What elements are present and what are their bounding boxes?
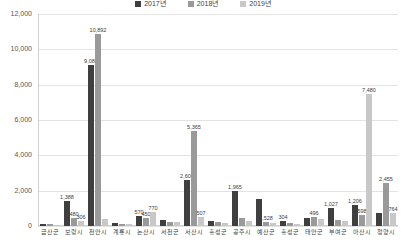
y-tick-label: 0 bbox=[28, 222, 32, 230]
bar[interactable] bbox=[383, 183, 389, 226]
bar[interactable] bbox=[167, 222, 173, 226]
bar-group: 2,455764 bbox=[374, 14, 398, 226]
bar[interactable] bbox=[126, 224, 132, 226]
bar[interactable] bbox=[174, 222, 180, 226]
bar-slot bbox=[119, 14, 125, 226]
bar[interactable] bbox=[95, 34, 101, 226]
x-tick-label: 청양시 bbox=[374, 228, 398, 244]
x-tick-label: 서천군 bbox=[158, 228, 182, 244]
bar[interactable] bbox=[88, 65, 94, 226]
bar-slot bbox=[208, 14, 214, 226]
bar-slot: 496 bbox=[311, 14, 317, 226]
bar[interactable] bbox=[143, 218, 149, 226]
x-tick-label: 서산시 bbox=[182, 228, 206, 244]
bar[interactable] bbox=[47, 224, 53, 226]
bar-slot: 304 bbox=[280, 14, 286, 226]
x-tick-label: 천안시 bbox=[86, 228, 110, 244]
bar[interactable] bbox=[366, 94, 372, 226]
bar-group bbox=[38, 14, 62, 226]
bar-slot: 480 bbox=[71, 14, 77, 226]
bar-slot: 306 bbox=[78, 14, 84, 226]
bar[interactable] bbox=[256, 199, 262, 226]
bar[interactable] bbox=[294, 224, 300, 226]
bar[interactable] bbox=[359, 215, 365, 226]
bar[interactable] bbox=[318, 219, 324, 226]
bar-slot: 450 bbox=[143, 14, 149, 226]
bar[interactable] bbox=[54, 225, 60, 226]
bar[interactable] bbox=[184, 180, 190, 226]
bar[interactable] bbox=[40, 224, 46, 226]
bar-slot bbox=[256, 14, 262, 226]
bar[interactable] bbox=[311, 217, 317, 226]
bar-slot: 598 bbox=[359, 14, 365, 226]
bar-value-label: 764 bbox=[388, 206, 397, 212]
y-tick-label: 10,000 bbox=[11, 45, 32, 53]
bar-slot bbox=[318, 14, 324, 226]
y-axis-tick-labels: 02,0004,0006,0008,00010,00012,000 bbox=[0, 14, 36, 226]
bar-slot bbox=[222, 14, 228, 226]
legend-swatch-icon bbox=[135, 1, 141, 7]
legend-swatch-icon bbox=[188, 1, 194, 7]
bar-group: 1,965 bbox=[230, 14, 254, 226]
bar-slot bbox=[126, 14, 132, 226]
bar[interactable] bbox=[335, 220, 341, 226]
bar-slot: 10,892 bbox=[95, 14, 101, 226]
bar[interactable] bbox=[112, 223, 118, 226]
bar[interactable] bbox=[222, 223, 228, 226]
bar[interactable] bbox=[78, 221, 84, 226]
bar-group: 2,6085,365507 bbox=[182, 14, 206, 226]
x-tick-label: 예산군 bbox=[254, 228, 278, 244]
bar[interactable] bbox=[239, 218, 245, 226]
bar-slot bbox=[167, 14, 173, 226]
bar[interactable] bbox=[304, 218, 310, 226]
bar-slot: 2,608 bbox=[184, 14, 190, 226]
x-tick-label: 계룡시 bbox=[110, 228, 134, 244]
bar[interactable] bbox=[270, 223, 276, 226]
bar[interactable] bbox=[342, 221, 348, 226]
bar[interactable] bbox=[246, 221, 252, 226]
bar[interactable] bbox=[390, 213, 396, 226]
x-axis-tick-labels: 금산군보령시천안시계룡시논산시서천군서산시홍성군공주시예산군홍성군태안군부여군아… bbox=[38, 228, 398, 244]
legend-item-0[interactable]: 2017년 bbox=[135, 0, 166, 8]
y-tick-label: 2,000 bbox=[14, 187, 32, 195]
bar-slot: 1,027 bbox=[328, 14, 334, 226]
bar[interactable] bbox=[150, 212, 156, 226]
bar[interactable] bbox=[215, 222, 221, 226]
bar[interactable] bbox=[263, 222, 269, 226]
bar[interactable] bbox=[376, 213, 382, 226]
bar-group: 1,2065987,480 bbox=[350, 14, 374, 226]
bar[interactable] bbox=[119, 224, 125, 226]
bar-value-label: 507 bbox=[196, 210, 205, 216]
bar-slot: 507 bbox=[198, 14, 204, 226]
bar-group bbox=[206, 14, 230, 226]
legend-swatch-icon bbox=[240, 1, 246, 7]
bar[interactable] bbox=[287, 223, 293, 226]
bar-group: 496 bbox=[302, 14, 326, 226]
bar-slot bbox=[160, 14, 166, 226]
bar[interactable] bbox=[280, 221, 286, 226]
bar[interactable] bbox=[208, 221, 214, 226]
bar-slot bbox=[215, 14, 221, 226]
bar-group: 9,08610,892 bbox=[86, 14, 110, 226]
bar[interactable] bbox=[102, 219, 108, 226]
gridline bbox=[38, 226, 398, 227]
plot-area: 1,3884803069,08610,8925704507702,6085,36… bbox=[38, 14, 398, 226]
bar[interactable] bbox=[328, 208, 334, 226]
bar-slot bbox=[246, 14, 252, 226]
bar[interactable] bbox=[232, 191, 238, 226]
bar-chart: 2017년2018년2019년 02,0004,0006,0008,00010,… bbox=[0, 0, 406, 244]
bar-slot bbox=[112, 14, 118, 226]
bar[interactable] bbox=[198, 217, 204, 226]
chart-legend: 2017년2018년2019년 bbox=[0, 0, 406, 10]
x-tick-label: 부여군 bbox=[326, 228, 350, 244]
bar[interactable] bbox=[136, 216, 142, 226]
bar-slot: 1,528 bbox=[263, 14, 269, 226]
x-tick-label: 금산군 bbox=[38, 228, 62, 244]
legend-item-1[interactable]: 2018년 bbox=[188, 0, 219, 8]
legend-item-2[interactable]: 2019년 bbox=[240, 0, 271, 8]
y-tick-label: 6,000 bbox=[14, 116, 32, 124]
bar-slot: 9,086 bbox=[88, 14, 94, 226]
bar[interactable] bbox=[160, 220, 166, 226]
bar-slot bbox=[304, 14, 310, 226]
x-tick-label: 홍성군 bbox=[206, 228, 230, 244]
